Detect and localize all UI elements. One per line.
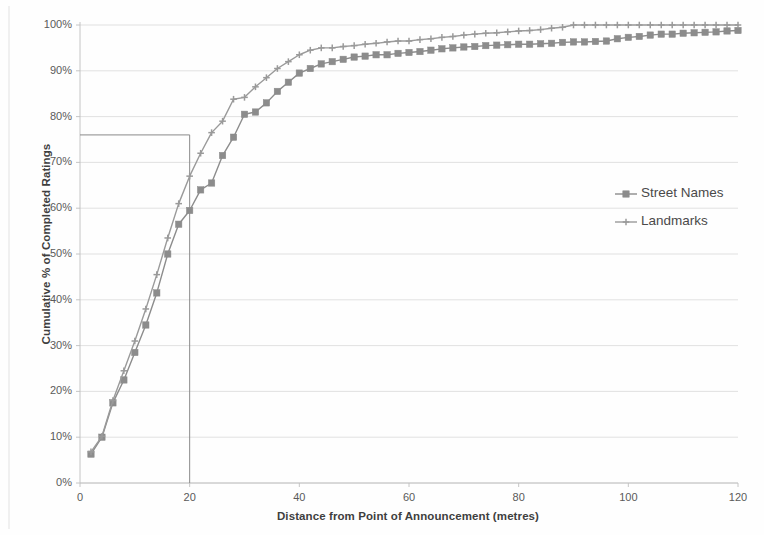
y-tick-label: 20% xyxy=(28,384,72,396)
data-point xyxy=(263,100,269,106)
data-point xyxy=(186,207,192,213)
data-point xyxy=(483,42,489,48)
series-line xyxy=(91,25,738,452)
y-tick-label: 0% xyxy=(28,476,72,488)
y-tick-label: 40% xyxy=(28,293,72,305)
data-point xyxy=(208,180,214,186)
data-point xyxy=(570,39,576,45)
x-tick-label: 100 xyxy=(608,491,648,503)
data-point xyxy=(472,43,478,49)
data-point xyxy=(176,221,182,227)
data-point xyxy=(230,134,236,140)
legend-label-landmarks: Landmarks xyxy=(641,213,708,228)
data-point xyxy=(647,32,653,38)
data-point xyxy=(461,44,467,50)
data-point xyxy=(154,290,160,296)
data-point xyxy=(285,79,291,85)
data-point xyxy=(329,58,335,64)
data-point xyxy=(450,45,456,51)
data-point xyxy=(274,88,280,94)
data-point xyxy=(702,29,708,35)
data-series xyxy=(88,22,742,458)
data-point xyxy=(340,56,346,62)
data-point xyxy=(680,30,686,36)
data-point xyxy=(351,54,357,60)
legend-label-street-names: Street Names xyxy=(641,185,724,200)
axis-lines xyxy=(9,6,738,529)
data-point xyxy=(439,46,445,52)
reference-lines xyxy=(80,135,190,483)
series-line xyxy=(91,31,738,455)
chart-container: Cumulative % of Completed Ratings Distan… xyxy=(0,0,764,535)
data-point xyxy=(505,41,511,47)
data-point xyxy=(395,50,401,56)
data-point xyxy=(592,38,598,44)
data-point xyxy=(614,36,620,42)
x-tick-label: 40 xyxy=(279,491,319,503)
data-point xyxy=(417,48,423,54)
x-tick-label: 0 xyxy=(60,491,100,503)
data-point xyxy=(724,28,730,34)
data-point xyxy=(494,42,500,48)
data-point xyxy=(713,29,719,35)
x-tick-label: 20 xyxy=(170,491,210,503)
data-point xyxy=(165,251,171,257)
y-tick-label: 30% xyxy=(28,339,72,351)
data-point xyxy=(132,349,138,355)
y-tick-label: 70% xyxy=(28,155,72,167)
series-landmarks xyxy=(88,22,742,455)
y-tick-label: 10% xyxy=(28,430,72,442)
data-point xyxy=(625,34,631,40)
x-tick-label: 120 xyxy=(718,491,758,503)
data-point xyxy=(428,47,434,53)
y-tick-label: 80% xyxy=(28,110,72,122)
data-point xyxy=(219,152,225,158)
data-point xyxy=(406,49,412,55)
data-point xyxy=(241,111,247,117)
data-point xyxy=(384,52,390,58)
plot-area xyxy=(0,0,764,535)
data-point xyxy=(669,31,675,37)
data-point xyxy=(603,38,609,44)
y-tick-label: 60% xyxy=(28,201,72,213)
y-tick-label: 100% xyxy=(28,18,72,30)
data-point xyxy=(537,41,543,47)
data-point xyxy=(581,39,587,45)
x-axis-title: Distance from Point of Announcement (met… xyxy=(78,510,738,522)
data-point xyxy=(548,40,554,46)
data-point xyxy=(658,31,664,37)
y-tick-label: 50% xyxy=(28,247,72,259)
data-point xyxy=(691,30,697,36)
data-point xyxy=(526,41,532,47)
data-point xyxy=(296,70,302,76)
x-tick-label: 60 xyxy=(389,491,429,503)
data-point xyxy=(559,39,565,45)
series-street-names xyxy=(88,27,741,457)
data-point xyxy=(636,33,642,39)
data-point xyxy=(362,53,368,59)
data-point xyxy=(373,52,379,58)
data-point xyxy=(515,41,521,47)
y-tick-label: 90% xyxy=(28,64,72,76)
data-point xyxy=(252,109,258,115)
data-point xyxy=(307,65,313,71)
data-point xyxy=(197,187,203,193)
gridlines xyxy=(80,25,738,483)
legend-marker-0 xyxy=(623,191,629,197)
data-point xyxy=(143,322,149,328)
x-tick-label: 80 xyxy=(499,491,539,503)
data-point xyxy=(318,61,324,67)
